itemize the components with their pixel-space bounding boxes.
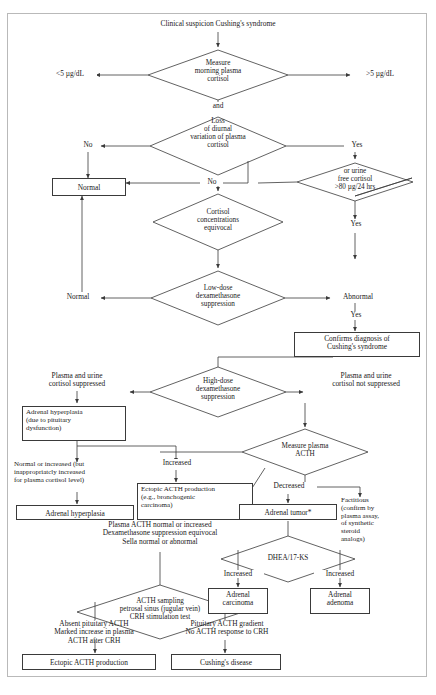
node-highdose-dexamethasone: High-dose dexamethasone suppression — [170, 377, 266, 401]
box-adrenal-hyperplasia: Adrenal hyperplasia — [16, 505, 134, 520]
node-cortisol-equivocal: Cortisol concentrations equivocal — [168, 208, 268, 232]
label-increased-carcinoma: Increased — [212, 570, 264, 578]
box-adrenal-hyperplasia-pituitary: Adrenal hyperplasia (due to pituitary dy… — [22, 406, 126, 441]
label-cortisol-not-suppressed: Plasma and urine cortisol not suppressed — [303, 372, 429, 389]
label-diurnal-yes: Yes — [344, 141, 370, 149]
label-diurnal-no: No — [76, 141, 100, 149]
label-lowdose-normal: Normal — [55, 293, 101, 301]
box-adrenal-tumor: Adrenal tumor* — [239, 504, 337, 520]
label-cortisol-lt5: <5 µg/dL — [43, 70, 97, 78]
label-normal-or-increased: Normal or increased (but inappropriatcly… — [14, 461, 144, 484]
node-measure-plasma-acth: Measure plasma ACTH — [258, 442, 352, 458]
node-start: Clinical suspicion Cushing's syndrome — [118, 20, 318, 28]
node-acth-sampling: ACTH sampling petrosal sinus (jugular ve… — [80, 597, 240, 621]
box-cushings-disease: Cushing's disease — [171, 654, 281, 670]
label-abnormal-yes: Yes — [343, 311, 369, 319]
box-confirms-diagnosis: Confirms diagnosis of Cushing's syndrome — [294, 332, 420, 357]
label-increased-adenoma: Increased — [314, 570, 366, 578]
node-dhea-17ks: DHEA/17-KS — [248, 554, 328, 562]
label-cortisol-gt5: >5 µg/dL — [353, 70, 407, 78]
label-increased-ectopic: Increased — [152, 459, 202, 467]
box-ectopic-acth-production-carcinoma: Ectopic ACTH production (e.g., bronchoge… — [137, 483, 253, 520]
label-urine-yes: Yes — [343, 220, 369, 228]
box-ectopic-acth-production: Ectopic ACTH production — [22, 654, 156, 670]
label-acth-equivocal-findings: Plasma ACTH normal or increased Dexameth… — [48, 521, 272, 546]
label-absent-pituitary-acth: Absent pituitary ACTH Marked increase in… — [18, 620, 170, 645]
label-factitious: Factitious (confirm by plasma assay, of … — [341, 497, 423, 544]
label-and: and — [198, 102, 238, 110]
label-equivocal-no: No — [201, 178, 223, 186]
label-lowdose-abnormal: Abnormal — [331, 293, 385, 301]
label-cortisol-suppressed: Plasma and urine cortisol suppressed — [18, 372, 136, 389]
label-pituitary-acth-gradient: Pituitary ACTH gradient No ACTH response… — [154, 620, 300, 637]
node-lowdose-dexamethasone: Low-dose dexamethasone suppression — [168, 284, 268, 308]
node-loss-diurnal-variation: Loss of diurnal variation of plasma cort… — [158, 117, 278, 149]
box-normal-1: Normal — [52, 178, 126, 196]
label-decreased: Decreased — [261, 482, 317, 490]
flowchart-page: Clinical suspicion Cushing's syndrome Me… — [0, 0, 436, 695]
node-urine-free-cortisol: or urine free cortisol >80 µg/24 hrs — [305, 167, 405, 191]
node-measure-morning-cortisol: Measure morning plasma cortisol — [168, 59, 268, 83]
box-adrenal-adenoma: Adrenal adenoma — [310, 588, 370, 614]
